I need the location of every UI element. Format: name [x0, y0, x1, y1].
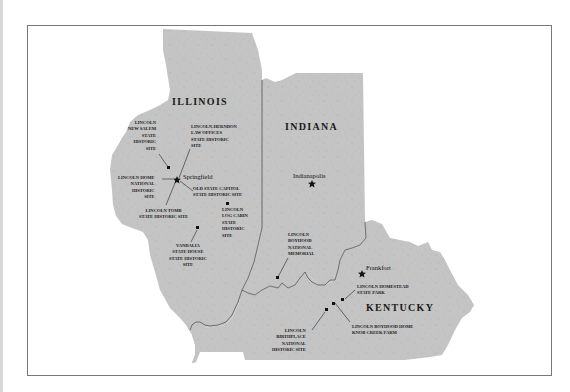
state-label-kentucky: KENTUCKY — [366, 302, 434, 313]
site-label-birthplace: LINCOLN BIRTHPLACE NATIONAL HISTORIC SIT… — [272, 328, 306, 354]
label-line: BOYHOOD — [288, 238, 314, 244]
square-marker-icon — [196, 226, 199, 229]
state-label-indiana: INDIANA — [285, 121, 338, 132]
site-label-lincoln-home: LINCOLN HOME NATIONAL HISTORIC SITE — [118, 175, 155, 201]
site-label-new-salem: LINCOLN NEW SALEM STATE HISTORIC SITE — [128, 120, 156, 152]
label-line: SITE — [222, 233, 248, 239]
state-label-illinois: ILLINOIS — [172, 96, 228, 107]
label-line: SITE — [191, 143, 237, 149]
square-marker-icon — [276, 276, 279, 279]
label-line: STATE HOUSE — [169, 249, 207, 255]
label-line: SITE — [169, 262, 207, 268]
label-line: STATE HISTORIC SITE — [139, 214, 188, 220]
label-line: MEMORIAL — [288, 251, 314, 257]
label-line: BIRTHPLACE — [272, 334, 306, 340]
capital-label-springfield: Springfield — [183, 173, 213, 180]
square-marker-icon — [167, 166, 170, 169]
label-line: HISTORIC — [222, 226, 248, 232]
site-label-log-cabin: LINCOLN LOG CABIN STATE HISTORIC SITE — [222, 207, 248, 239]
capital-label-frankfort: Frankfort — [366, 264, 391, 271]
square-marker-icon — [325, 308, 328, 311]
site-label-lincoln-homestead: LINCOLN HOMESTEAD STATE PARK — [357, 284, 409, 297]
label-line: NEW SALEM — [128, 126, 156, 132]
square-marker-icon — [226, 202, 229, 205]
site-label-lincoln-tomb: LINCOLN TOMB STATE HISTORIC SITE — [139, 208, 188, 221]
site-label-old-state-capitol: OLD STATE CAPITOL STATE HISTORIC SITE — [193, 186, 242, 199]
label-line: HISTORIC SITE — [272, 347, 306, 353]
square-marker-icon — [341, 298, 344, 301]
capital-label-indianapolis: Indianapolis — [293, 172, 326, 179]
site-label-vandalia: VANDALIA STATE HOUSE STATE HISTORIC SITE — [169, 243, 207, 269]
label-line: SITE — [118, 194, 155, 200]
site-label-knob-creek: LINCOLN BOYHOOD HOME KNOB CREEK FARM — [352, 324, 413, 337]
site-label-lincoln-herndon: LINCOLN-HERNDON LAW OFFICES STATE HISTOR… — [191, 124, 237, 150]
square-marker-icon — [332, 302, 335, 305]
label-line: LOG CABIN — [222, 213, 248, 219]
site-label-boyhood-memorial: LINCOLN BOYHOOD NATIONAL MEMORIAL — [288, 232, 314, 258]
label-line: STATE HISTORIC SITE — [193, 192, 242, 198]
label-line: SITE — [128, 146, 156, 152]
label-line: KNOB CREEK FARM — [352, 330, 413, 336]
label-line: STATE PARK — [357, 290, 409, 296]
